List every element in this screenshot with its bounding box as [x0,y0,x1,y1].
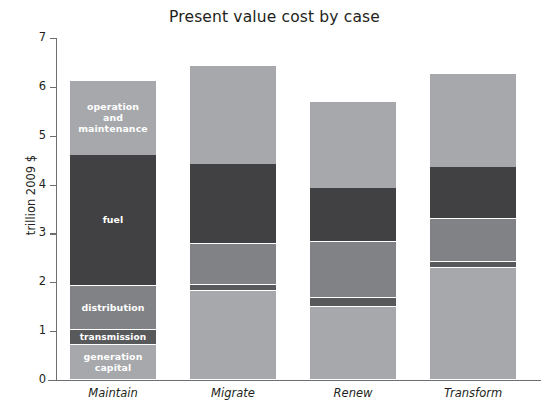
y-tick-label: 1 [22,323,46,337]
y-tick-mark [50,185,56,186]
segment-label-generation-capital: generation capital [84,351,143,373]
bar-segment-fuel[interactable]: fuel [70,155,156,285]
y-tick-mark [50,87,56,88]
bar-segment-distribution[interactable] [190,244,276,285]
segment-label-operation-and-maintenance: operation and maintenance [78,101,148,134]
y-tick-label: 7 [22,30,46,44]
segment-label-distribution: distribution [81,302,144,313]
y-tick-label: 6 [22,79,46,93]
x-category-label-transform: Transform [430,386,516,400]
bar-segment-generation-capital[interactable] [190,291,276,380]
stacked-bar-chart: Present value cost by case trillion 2009… [0,0,549,412]
bar-segment-fuel[interactable] [310,188,396,242]
bar-group-transform[interactable] [430,0,516,380]
y-tick-mark [50,233,56,234]
y-tick-mark [50,38,56,39]
bar-segment-transmission[interactable]: transmission [70,330,156,345]
bar-segment-generation-capital[interactable]: generation capital [70,345,156,380]
x-category-label-migrate: Migrate [190,386,276,400]
x-axis-line [48,380,541,381]
y-tick-mark [50,380,56,381]
bar-segment-transmission[interactable] [430,262,516,268]
bar-segment-distribution[interactable] [310,242,396,298]
bar-segment-distribution[interactable] [430,219,516,262]
y-tick-mark [50,136,56,137]
x-category-label-maintain: Maintain [70,386,156,400]
bar-segment-transmission[interactable] [190,285,276,291]
y-tick-mark [50,331,56,332]
bar-segment-operation-and-maintenance[interactable] [190,66,276,164]
segment-label-fuel: fuel [103,214,124,225]
bar-segment-operation-and-maintenance[interactable] [430,74,516,167]
y-axis-line [56,38,57,381]
bar-segment-distribution[interactable]: distribution [70,286,156,330]
bar-segment-transmission[interactable] [310,298,396,306]
bar-group-maintain[interactable]: generation capitaltransmissiondistributi… [70,0,156,380]
bar-segment-generation-capital[interactable] [430,268,516,380]
bar-segment-fuel[interactable] [190,164,276,245]
bar-segment-fuel[interactable] [430,167,516,219]
y-tick-label: 4 [22,177,46,191]
bar-group-migrate[interactable] [190,0,276,380]
bar-segment-generation-capital[interactable] [310,307,396,380]
y-tick-label: 2 [22,274,46,288]
y-tick-label: 5 [22,128,46,142]
y-tick-label: 0 [22,372,46,386]
bar-group-renew[interactable] [310,0,396,380]
segment-label-transmission: transmission [80,332,147,342]
y-tick-label: 3 [22,225,46,239]
bar-segment-operation-and-maintenance[interactable] [310,102,396,189]
x-category-label-renew: Renew [310,386,396,400]
y-tick-mark [50,282,56,283]
bar-segment-operation-and-maintenance[interactable]: operation and maintenance [70,81,156,156]
